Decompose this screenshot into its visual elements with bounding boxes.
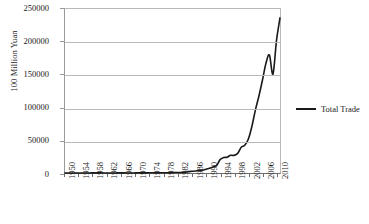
x-tick-label: 2010 <box>281 162 290 179</box>
x-tick-label: 1986 <box>196 162 205 179</box>
x-tick-mark <box>135 174 136 177</box>
chart-container: 100 Million Yuan 25000020000015000010000… <box>0 0 369 224</box>
x-tick-mark <box>221 174 222 177</box>
legend-swatch-total-trade <box>296 108 316 110</box>
x-tick-label: 1954 <box>82 162 91 179</box>
x-tick-label: 1950 <box>68 162 77 179</box>
x-tick-mark <box>107 174 108 177</box>
x-tick-mark <box>206 174 207 177</box>
x-tick-mark <box>178 174 179 177</box>
x-tick-mark <box>149 174 150 177</box>
x-tick-mark <box>192 174 193 177</box>
x-tick-label: 2006 <box>267 162 276 179</box>
x-tick-label: 1962 <box>110 162 119 179</box>
x-tick-label: 1994 <box>224 162 233 179</box>
x-tick-label: 1982 <box>181 162 190 179</box>
x-tick-mark <box>277 174 278 177</box>
x-tick-label: 1974 <box>153 162 162 179</box>
x-tick-mark <box>121 174 122 177</box>
x-tick-label: 1990 <box>210 162 219 179</box>
x-tick-label: 1970 <box>139 162 148 179</box>
x-tick-label: 1978 <box>167 162 176 179</box>
x-tick-label: 2002 <box>253 162 262 179</box>
chart-legend: Total Trade <box>296 104 360 114</box>
x-tick-mark <box>263 174 264 177</box>
x-tick-mark <box>164 174 165 177</box>
x-tick-mark <box>64 174 65 177</box>
x-tick-mark <box>249 174 250 177</box>
x-tick-mark <box>235 174 236 177</box>
x-tick-mark <box>78 174 79 177</box>
x-tick-label: 1998 <box>238 162 247 179</box>
x-tick-label: 1966 <box>125 162 134 179</box>
legend-label-total-trade: Total Trade <box>321 104 360 114</box>
x-tick-mark <box>92 174 93 177</box>
x-tick-label: 1958 <box>96 162 105 179</box>
